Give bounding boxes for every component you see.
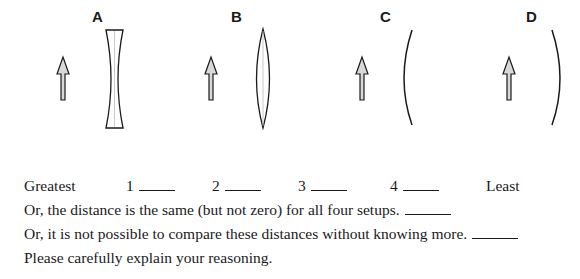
rank-number: 4 — [390, 177, 398, 194]
same-distance-text: Or, the distance is the same (but not ze… — [24, 201, 400, 218]
rank-1-blank[interactable] — [139, 176, 175, 191]
rank-number: 1 — [126, 177, 134, 194]
ranking-row: Greatest 1 2 3 4 Least — [24, 174, 518, 198]
object-arrow-icon — [356, 57, 368, 100]
mirror-d-icon — [552, 30, 560, 125]
least-label: Least — [486, 174, 520, 198]
rank-1: 1 — [126, 174, 175, 198]
cannot-compare-text: Or, it is not possible to compare these … — [24, 225, 467, 242]
rank-number: 3 — [298, 177, 306, 194]
mirror-c-icon — [404, 30, 412, 125]
diverging-lens-icon — [106, 30, 123, 128]
same-distance-option: Or, the distance is the same (but not ze… — [24, 198, 518, 222]
converging-lens-icon — [257, 29, 270, 128]
rank-2: 2 — [212, 174, 261, 198]
greatest-label: Greatest — [24, 174, 76, 198]
cannot-compare-blank[interactable] — [472, 224, 518, 239]
rank-3-blank[interactable] — [311, 176, 347, 191]
rank-number: 2 — [212, 177, 220, 194]
cannot-compare-option: Or, it is not possible to compare these … — [24, 222, 518, 246]
object-arrow-icon — [503, 57, 515, 100]
same-distance-blank[interactable] — [405, 200, 451, 215]
rank-4: 4 — [390, 174, 439, 198]
rank-2-blank[interactable] — [225, 176, 261, 191]
instruction-text: Please carefully explain your reasoning. — [24, 249, 272, 266]
instruction-line: Please carefully explain your reasoning. — [24, 246, 518, 270]
question-text: Greatest 1 2 3 4 Least Or, the distance … — [24, 174, 518, 270]
object-arrow-icon — [57, 57, 69, 100]
optics-diagram: A B C D — [0, 0, 580, 150]
rank-4-blank[interactable] — [403, 176, 439, 191]
rank-3: 3 — [298, 174, 347, 198]
object-arrow-icon — [205, 57, 217, 100]
